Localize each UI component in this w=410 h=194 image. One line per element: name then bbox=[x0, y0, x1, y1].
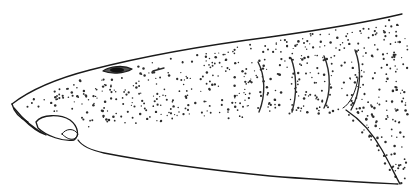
lip-oval bbox=[36, 116, 77, 141]
shark-head-illustration: Lateral view of shark head (line illustr… bbox=[0, 0, 410, 194]
snout-underside bbox=[12, 104, 28, 122]
eye-pupil bbox=[110, 68, 124, 73]
shark-drawing bbox=[0, 0, 410, 194]
dorsal-outline bbox=[12, 14, 402, 104]
gill-slit-2 bbox=[291, 58, 296, 112]
ventral-outline bbox=[78, 140, 398, 184]
lip-inner bbox=[62, 130, 78, 140]
